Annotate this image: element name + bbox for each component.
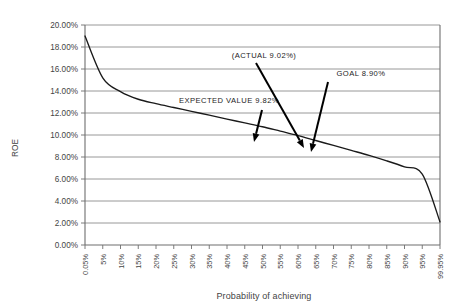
- y-tick-label: 16.00%: [50, 65, 78, 74]
- x-tick-label: 40%: [223, 254, 232, 269]
- x-tick-label: 35%: [205, 254, 214, 269]
- y-tick-label: 20.00%: [50, 21, 78, 30]
- x-tick-label: 50%: [259, 254, 268, 269]
- y-tick-label: 4.00%: [55, 197, 78, 206]
- y-tick-label: 2.00%: [55, 219, 78, 228]
- y-tick-label: 6.00%: [55, 175, 78, 184]
- x-tick-label: 80%: [365, 254, 374, 269]
- x-tick-label: 85%: [383, 254, 392, 269]
- x-tick-label: 5%: [99, 254, 108, 265]
- x-tick-label: 45%: [241, 254, 250, 269]
- x-tick-label: 0.05%: [81, 254, 90, 275]
- y-tick-label: 10.00%: [50, 131, 78, 140]
- x-tick-label: 25%: [170, 254, 179, 269]
- annotation-label-goal: GOAL 8.90%: [337, 69, 386, 78]
- y-tick-label: 12.00%: [50, 109, 78, 118]
- x-tick-label: 90%: [401, 254, 410, 269]
- x-tick-label: 60%: [294, 254, 303, 269]
- y-tick-label: 8.00%: [55, 153, 78, 162]
- x-tick-label: 75%: [347, 254, 356, 269]
- x-tick-label: 99.95%: [436, 254, 445, 279]
- x-axis-title: Probability of achieving: [217, 291, 312, 301]
- roe-probability-line-chart: 0.00%2.00%4.00%6.00%8.00%10.00%12.00%14.…: [0, 0, 464, 308]
- x-tick-label: 55%: [276, 254, 285, 269]
- chart-container: 0.00%2.00%4.00%6.00%8.00%10.00%12.00%14.…: [0, 0, 464, 308]
- x-tick-label: 70%: [330, 254, 339, 269]
- x-tick-label: 65%: [312, 254, 321, 269]
- x-tick-marks: [85, 245, 440, 249]
- x-tick-label: 30%: [188, 254, 197, 269]
- y-tick-label: 0.00%: [55, 241, 78, 250]
- y-tick-label: 18.00%: [50, 43, 78, 52]
- y-axis-title: ROE: [11, 139, 20, 157]
- x-tick-label: 15%: [134, 254, 143, 269]
- y-tick-label: 14.00%: [50, 87, 78, 96]
- x-tick-label: 95%: [418, 254, 427, 269]
- annotation-label-expected-value: EXPECTED VALUE 9.82%: [179, 96, 279, 105]
- x-tick-label: 20%: [152, 254, 161, 269]
- annotation-label-actual: (ACTUAL 9.02%): [232, 51, 297, 60]
- x-tick-label: 10%: [117, 254, 126, 269]
